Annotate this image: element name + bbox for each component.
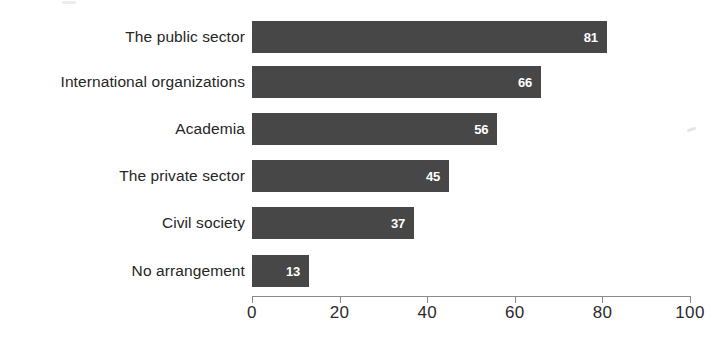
bar-international-organizations: 66 [252,66,541,98]
x-axis-tick [340,296,341,303]
bar-value-label: 56 [474,123,497,136]
bar-the-public-sector: 81 [252,21,607,53]
x-axis-tick [690,296,691,303]
bar-value-label: 81 [584,31,607,44]
x-axis-tick-label: 0 [247,304,257,321]
bar-the-private-sector: 45 [252,160,449,192]
x-axis-tick-label: 40 [417,304,437,321]
category-label: Civil society [0,207,245,239]
bar-value-label: 37 [391,217,414,230]
x-axis-tick [252,296,253,303]
bar-value-label: 45 [426,170,449,183]
plot-area: 81 66 56 45 37 13 [252,0,690,344]
category-label: Academia [0,113,245,145]
x-axis-tick-label: 60 [505,304,525,321]
category-axis-labels: The public sector International organiza… [0,0,245,344]
bar-value-label: 13 [286,265,309,278]
x-axis-tick [427,296,428,303]
category-label: No arrangement [0,255,245,287]
bar-no-arrangement: 13 [252,255,309,287]
scan-artifact-speck [62,1,76,4]
category-label: The private sector [0,160,245,192]
bar-academia: 56 [252,113,497,145]
x-axis-tick [515,296,516,303]
category-label: The public sector [0,21,245,53]
x-axis-tick-label: 80 [593,304,613,321]
bar-civil-society: 37 [252,207,414,239]
x-axis-tick [602,296,603,303]
x-axis-tick-label: 20 [330,304,350,321]
x-axis-tick-label: 100 [675,304,704,321]
category-label: International organizations [0,66,245,98]
bar-chart: The public sector International organiza… [0,0,708,344]
bar-value-label: 66 [518,76,541,89]
x-axis-line [252,296,690,297]
